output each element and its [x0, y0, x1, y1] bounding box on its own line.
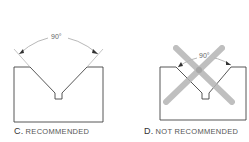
diagram-canvas — [0, 0, 249, 142]
angle-label-d: 90° — [199, 52, 210, 59]
caption-text-d: NOT RECOMMENDED — [156, 127, 239, 136]
arrowhead-right-icon — [226, 61, 231, 65]
cross-out-stroke-2 — [166, 48, 222, 102]
arrowhead-left-icon — [19, 49, 24, 54]
caption-letter-c: C. — [14, 126, 24, 136]
vblock-outline — [14, 67, 103, 122]
caption-letter-d: D. — [144, 126, 154, 136]
cross-center — [196, 67, 202, 73]
angle-label-c: 90° — [51, 33, 62, 40]
caption-text-c: RECOMMENDED — [26, 127, 90, 136]
arrowhead-left-icon — [178, 62, 183, 67]
figure-c-vblock — [14, 33, 103, 122]
caption-c: C.RECOMMENDED — [14, 126, 89, 136]
arrowhead-right-icon — [92, 49, 98, 54]
caption-d: D.NOT RECOMMENDED — [144, 126, 238, 136]
